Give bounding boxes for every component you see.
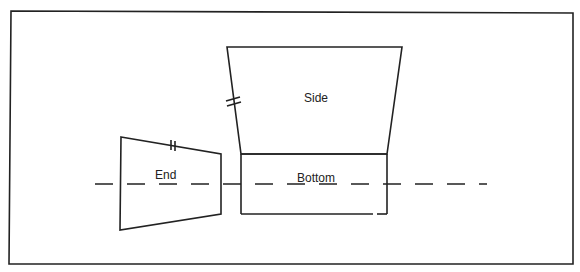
diagram-canvas [0,0,580,272]
bottom-label: Bottom [297,171,335,185]
side-label: Side [304,91,328,105]
outer-frame [9,11,573,264]
end-label: End [155,168,176,182]
